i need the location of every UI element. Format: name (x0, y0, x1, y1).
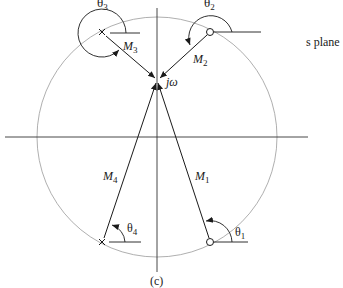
caption: (c) (150, 274, 163, 288)
label-j-omega: jω (164, 75, 178, 89)
label-m3: M3 (122, 39, 138, 55)
s-plane-diagram: θ3 θ2 θ4 θ1 M3 M2 M4 M1 jω s plane (c) (0, 0, 343, 288)
label-theta2: θ2 (204, 0, 215, 12)
label-s-plane: s plane (306, 35, 340, 49)
zero-marker-z1 (207, 239, 214, 246)
angle-arc-theta4 (112, 225, 125, 242)
diagram-svg: θ3 θ2 θ4 θ1 M3 M2 M4 M1 jω s plane (c) (0, 0, 343, 288)
zero-marker-z2 (207, 29, 214, 36)
label-m2: M2 (192, 52, 208, 68)
label-m1: M1 (194, 169, 210, 185)
vector-m4 (104, 83, 156, 238)
label-theta3: θ3 (97, 0, 108, 12)
vector-m1 (158, 83, 209, 238)
label-m4: M4 (102, 169, 118, 185)
label-theta4: θ4 (127, 221, 138, 237)
label-theta1: θ1 (235, 225, 245, 241)
